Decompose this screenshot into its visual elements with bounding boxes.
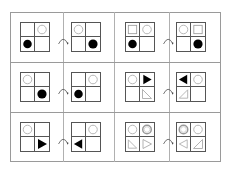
cell-bl [126, 87, 140, 101]
cell-tr [86, 73, 100, 87]
triangle-left-outline-icon [177, 137, 190, 151]
pair-1-before-grid [20, 22, 50, 52]
pair-4-before-grid [125, 72, 155, 102]
circle-outline-icon [86, 73, 100, 86]
circle-filled-icon [86, 37, 100, 51]
circle-filled-icon [21, 37, 34, 51]
triangle-right-filled-icon [35, 137, 49, 151]
right-triangle-outline-mirrored-icon [191, 137, 205, 151]
cell-bl [21, 37, 35, 51]
cell-tl [72, 123, 86, 137]
cell-br [35, 37, 49, 51]
cell-tl [21, 123, 35, 137]
circle-outline-icon [140, 23, 154, 36]
cell-bl [21, 137, 35, 151]
circle-outline-icon [126, 73, 139, 86]
cell-bl [126, 37, 140, 51]
pair-3-before-grid [20, 72, 50, 102]
cell-tr [191, 23, 205, 37]
curved-arrow-icon [162, 131, 174, 141]
cell-tl [72, 73, 86, 87]
right-triangle-outline-mirrored-icon [177, 87, 190, 101]
cell-tr [86, 23, 100, 37]
pair-6-before-grid [125, 122, 155, 152]
cell-tl [126, 23, 140, 37]
row-divider-2 [10, 112, 221, 113]
pair-5-after-grid [71, 122, 101, 152]
right-triangle-outline-icon [140, 87, 154, 101]
circle-filled-icon [35, 87, 49, 101]
row-divider-1 [10, 62, 221, 63]
triangle-left-filled-icon [72, 137, 85, 151]
cell-br [35, 87, 49, 101]
cell-bl [177, 87, 191, 101]
circle-outline-icon [21, 123, 34, 136]
cell-tr [191, 123, 205, 137]
pair-5-before-grid [20, 122, 50, 152]
cell-br [86, 137, 100, 151]
cell-tl [177, 123, 191, 137]
cell-bl [177, 37, 191, 51]
cell-br [35, 137, 49, 151]
circle-outline-icon [35, 23, 49, 36]
curved-arrow-icon [57, 131, 69, 141]
triangle-right-outline-icon [140, 137, 154, 151]
pair-3-after-grid [71, 72, 101, 102]
circle-outline-icon [177, 23, 190, 36]
cell-br [140, 37, 154, 51]
cell-tl [21, 23, 35, 37]
cell-tl [126, 123, 140, 137]
square-outline-icon [191, 23, 205, 36]
circle-outline-icon [72, 23, 85, 36]
cell-br [191, 37, 205, 51]
curved-arrow-icon [57, 31, 69, 41]
center-divider [114, 12, 115, 162]
square-outline-icon [126, 23, 139, 36]
pair-1-after-grid [71, 22, 101, 52]
circle-filled-icon [191, 37, 205, 51]
cell-tr [140, 73, 154, 87]
cell-bl [177, 137, 191, 151]
curved-arrow-icon [162, 31, 174, 41]
cell-br [140, 87, 154, 101]
circle-double-icon [177, 123, 190, 136]
right-triangle-outline-icon [126, 137, 139, 151]
cell-tl [72, 23, 86, 37]
cell-bl [21, 87, 35, 101]
cell-br [140, 137, 154, 151]
cell-tl [126, 73, 140, 87]
cell-tr [86, 123, 100, 137]
cell-br [191, 137, 205, 151]
circle-double-icon [140, 123, 154, 136]
cell-bl [72, 37, 86, 51]
cell-tr [35, 123, 49, 137]
pair-2-after-grid [176, 22, 206, 52]
cell-tr [191, 73, 205, 87]
circle-outline-icon [86, 123, 100, 136]
cell-tl [21, 73, 35, 87]
circle-filled-icon [72, 87, 85, 101]
circle-outline-icon [126, 123, 139, 136]
cell-bl [72, 137, 86, 151]
cell-tl [177, 23, 191, 37]
cell-br [191, 87, 205, 101]
circle-outline-icon [191, 73, 205, 86]
cell-tr [140, 123, 154, 137]
circle-outline-icon [21, 73, 34, 86]
triangle-left-filled-icon [177, 73, 190, 86]
cell-bl [72, 87, 86, 101]
pair-2-before-grid [125, 22, 155, 52]
circle-outline-icon [191, 123, 205, 136]
pair-4-after-grid [176, 72, 206, 102]
curved-arrow-icon [162, 81, 174, 91]
cell-tr [35, 23, 49, 37]
cell-tr [35, 73, 49, 87]
circle-filled-icon [126, 37, 139, 51]
pair-6-after-grid [176, 122, 206, 152]
curved-arrow-icon [57, 81, 69, 91]
cell-tr [140, 23, 154, 37]
triangle-right-filled-icon [140, 73, 154, 86]
cell-br [86, 87, 100, 101]
cell-br [86, 37, 100, 51]
cell-bl [126, 137, 140, 151]
